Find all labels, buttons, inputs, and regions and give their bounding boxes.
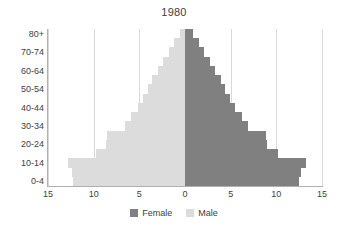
bar-female-30-34: [185, 121, 248, 130]
bar-male-5-9: [72, 168, 185, 177]
bar-row: [48, 149, 322, 158]
y-tick-label-60-64: 60-64: [0, 66, 44, 76]
bar-row: [48, 140, 322, 149]
y-tick-label-20-24: 20-24: [0, 139, 44, 149]
bar-male-45-49: [143, 94, 185, 103]
bar-female-15-19: [185, 149, 278, 158]
legend-label-female: Female: [142, 208, 172, 218]
bar-row: [48, 75, 322, 84]
y-tick-label-70-74: 70-74: [0, 47, 44, 57]
bar-female-60-64: [185, 66, 215, 75]
chart-title: 1980: [0, 6, 348, 19]
bar-row: [48, 57, 322, 66]
population-pyramid-chart: 1980 0-410-1420-2430-3440-4450-5460-6470…: [0, 0, 348, 235]
y-tick-label-30-34: 30-34: [0, 121, 44, 131]
x-tick-label-15-left: 15: [43, 189, 53, 200]
bar-female-0-4: [185, 177, 299, 186]
y-tick-label-0-4: 0-4: [0, 176, 44, 186]
x-tick-label-10-right: 10: [271, 189, 281, 200]
bars-layer: [48, 29, 322, 186]
bar-row: [48, 47, 322, 56]
y-tick-label-40-44: 40-44: [0, 103, 44, 113]
bar-female-5-9: [185, 168, 301, 177]
chart-legend: FemaleMale: [0, 208, 348, 218]
bar-female-70-74: [185, 47, 204, 56]
x-tick-label-10-left: 10: [89, 189, 99, 200]
x-tick-label-15-right: 15: [317, 189, 327, 200]
x-tick-label-5-right: 5: [228, 189, 233, 200]
bar-row: [48, 177, 322, 186]
bar-row: [48, 121, 322, 130]
bar-female-75-79: [185, 38, 199, 47]
x-tick-label-0-zero: 0: [182, 189, 187, 200]
legend-swatch-male-icon: [186, 209, 194, 217]
y-tick-label-50-54: 50-54: [0, 84, 44, 94]
bar-male-35-39: [131, 112, 185, 121]
bar-female-25-29: [185, 131, 266, 140]
legend-item-female[interactable]: Female: [130, 208, 172, 218]
bar-row: [48, 84, 322, 93]
bar-female-55-59: [185, 75, 221, 84]
y-tick-label-80+: 80+: [0, 29, 44, 39]
bar-male-60-64: [158, 66, 185, 75]
bar-female-20-24: [185, 140, 267, 149]
bar-male-30-34: [125, 121, 185, 130]
bar-row: [48, 94, 322, 103]
bar-male-10-14: [68, 158, 185, 167]
bar-row: [48, 103, 322, 112]
bar-row: [48, 168, 322, 177]
legend-swatch-female-icon: [130, 209, 138, 217]
legend-item-male[interactable]: Male: [186, 208, 218, 218]
y-axis-tick-labels: 0-410-1420-2430-3440-4450-5460-6470-7480…: [0, 29, 44, 186]
bar-female-80+: [185, 29, 193, 38]
plot-area: [48, 29, 322, 186]
bar-row: [48, 38, 322, 47]
gridline-15-right: [322, 29, 323, 186]
bar-female-35-39: [185, 112, 242, 121]
bar-male-55-59: [152, 75, 185, 84]
bar-male-75-79: [174, 38, 185, 47]
bar-row: [48, 66, 322, 75]
bar-row: [48, 29, 322, 38]
x-axis-line: [47, 186, 323, 187]
bar-female-40-44: [185, 103, 235, 112]
bar-female-10-14: [185, 158, 306, 167]
bar-female-50-54: [185, 84, 225, 93]
bar-row: [48, 131, 322, 140]
bar-female-65-69: [185, 57, 210, 66]
x-tick-label-5-left: 5: [137, 189, 142, 200]
bar-female-45-49: [185, 94, 230, 103]
y-tick-label-10-14: 10-14: [0, 158, 44, 168]
bar-male-25-29: [107, 131, 185, 140]
bar-male-70-74: [169, 47, 185, 56]
bar-male-20-24: [106, 140, 185, 149]
bar-male-15-19: [96, 149, 185, 158]
bar-male-40-44: [138, 103, 185, 112]
bar-male-50-54: [148, 84, 185, 93]
bar-row: [48, 112, 322, 121]
bar-male-65-69: [163, 57, 185, 66]
x-axis-tick-labels: 15105051015: [48, 189, 322, 203]
legend-label-male: Male: [198, 208, 218, 218]
bar-row: [48, 158, 322, 167]
bar-male-0-4: [73, 177, 185, 186]
